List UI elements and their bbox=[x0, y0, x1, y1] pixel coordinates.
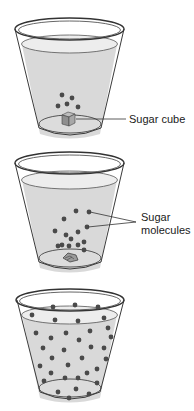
sugar-molecules-label-line1: Sugar bbox=[141, 211, 170, 223]
sugar-diffusion-diagram: Sugar cube Sugar molecules bbox=[0, 0, 194, 411]
cup-1-sugar-cube bbox=[15, 18, 126, 139]
sugar-cube-label: Sugar cube bbox=[129, 113, 185, 125]
cup-3-dissolved bbox=[16, 289, 124, 403]
sugar-cube-icon bbox=[62, 112, 75, 126]
cup-2-rim-inner bbox=[19, 155, 121, 173]
cup-3-bottom bbox=[39, 379, 101, 397]
cup-2-dissolving bbox=[15, 152, 136, 273]
sugar-molecules-label-line2: molecules bbox=[141, 224, 191, 236]
